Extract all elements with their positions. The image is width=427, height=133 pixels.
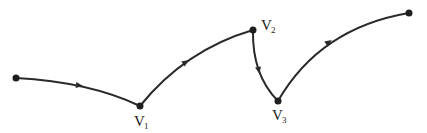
vertex-v3 — [275, 98, 282, 105]
vertex-end — [406, 10, 413, 17]
vertex-v2 — [250, 27, 257, 34]
edge-v2-v3 — [253, 30, 278, 101]
vertex-start — [13, 75, 20, 82]
arrow-icon-edge-1 — [76, 82, 84, 89]
label-v1-sub: 1 — [144, 121, 149, 131]
label-v3-sub: 3 — [282, 115, 287, 125]
edge-v3-end — [278, 13, 409, 101]
edge-start-v1 — [16, 78, 140, 106]
label-v2-sub: 2 — [271, 25, 276, 35]
arrow-icon-edge-3 — [255, 66, 262, 74]
vertex-v1 — [137, 103, 144, 110]
path-diagram: V 1 V 2 V 3 — [0, 0, 427, 133]
edge-v1-v2 — [140, 30, 253, 106]
